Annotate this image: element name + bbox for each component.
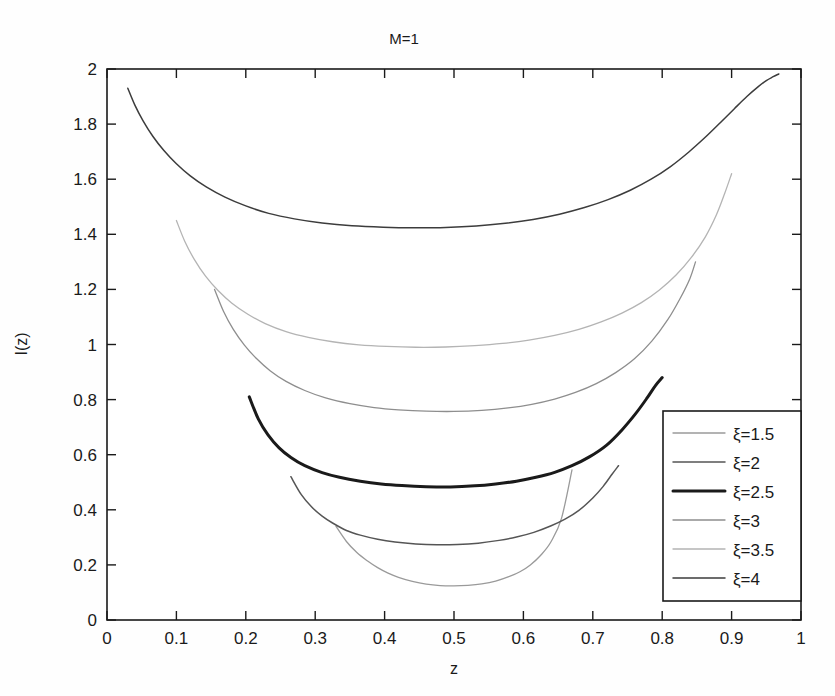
y-axis-label: I(z)	[13, 332, 30, 355]
y-tick-label: 1.2	[73, 280, 97, 299]
y-tick-label: 1.8	[73, 115, 97, 134]
x-tick-label: 0.1	[165, 629, 189, 648]
y-tick-label: 1.4	[73, 225, 97, 244]
x-tick-label: 0.3	[303, 629, 327, 648]
x-tick-label: 0.5	[442, 629, 466, 648]
y-tick-label: 2	[88, 60, 97, 79]
figure-canvas: M=1 00.10.20.30.40.50.60.70.80.91 00.20.…	[0, 0, 835, 696]
chart-plot: M=1 00.10.20.30.40.50.60.70.80.91 00.20.…	[0, 0, 835, 696]
x-tick-label: 0.7	[581, 629, 605, 648]
x-tick-label: 0.8	[650, 629, 674, 648]
legend-label-3: ξ=3	[733, 512, 760, 531]
y-tick-label: 0.6	[73, 446, 97, 465]
y-tick-label: 1.6	[73, 170, 97, 189]
legend-label-4: ξ=3.5	[733, 541, 774, 560]
x-tick-label: 0.4	[373, 629, 397, 648]
y-tick-label: 0	[88, 611, 97, 630]
y-tick-label: 0.2	[73, 556, 97, 575]
x-tick-label: 0.9	[720, 629, 744, 648]
x-tick-label: 0.2	[234, 629, 258, 648]
x-axis-label: z	[450, 660, 458, 677]
x-tick-label: 0.6	[512, 629, 536, 648]
legend[interactable]: ξ=1.5ξ=2ξ=2.5ξ=3ξ=3.5ξ=4	[663, 411, 801, 601]
legend-label-1: ξ=2	[733, 454, 760, 473]
legend-box	[663, 411, 801, 601]
x-tick-label: 1	[796, 629, 805, 648]
legend-label-2: ξ=2.5	[733, 483, 774, 502]
legend-label-0: ξ=1.5	[733, 425, 774, 444]
y-tick-label: 0.8	[73, 391, 97, 410]
legend-label-5: ξ=4	[733, 570, 760, 589]
y-tick-label: 0.4	[73, 501, 97, 520]
chart-title: M=1	[389, 30, 419, 47]
y-tick-label: 1	[88, 336, 97, 355]
x-tick-label: 0	[102, 629, 111, 648]
